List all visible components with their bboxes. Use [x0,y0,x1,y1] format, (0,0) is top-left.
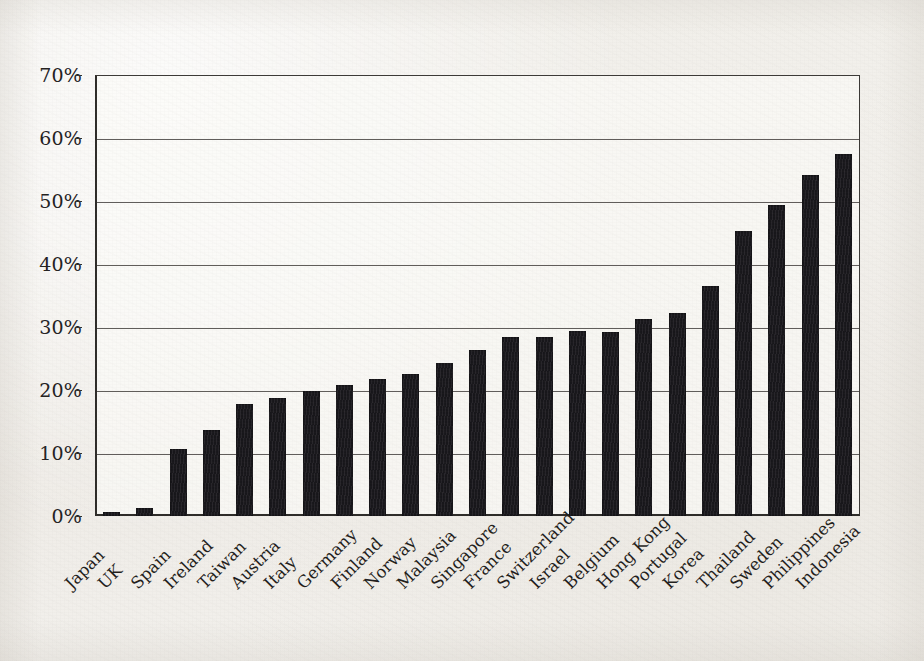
bar [103,512,120,516]
bar [336,385,353,516]
bar [536,337,553,516]
bar [136,508,153,516]
y-axis-tick-mark [75,264,82,265]
bar [768,205,785,516]
bar [436,363,453,516]
bar [602,332,619,516]
bar [203,430,220,516]
bar-series [95,75,860,516]
bar [236,404,253,516]
bar [835,154,852,516]
bar [702,286,719,516]
y-axis-tick-mark [75,327,82,328]
bar [635,319,652,516]
bar [269,398,286,516]
y-axis-tick-mark [75,390,82,391]
y-axis-tick-mark [75,201,82,202]
bar [303,391,320,516]
bar [802,175,819,516]
bar-chart-figure: 0%10%20%30%40%50%60%70% JapanUKSpainIrel… [0,0,924,661]
bar [735,231,752,516]
y-axis-tick-mark [75,453,82,454]
bar [469,350,486,516]
y-axis-tick-mark [75,75,82,76]
bar [569,331,586,516]
bar [502,337,519,516]
y-axis-tick-mark [75,516,82,517]
y-axis: 0%10%20%30%40%50%60%70% [0,75,82,516]
bar [402,374,419,516]
x-axis-category-labels: JapanUKSpainIrelandTaiwanAustriaItalyGer… [95,520,860,660]
bar [170,449,187,516]
scanned-page: 0%10%20%30%40%50%60%70% JapanUKSpainIrel… [0,0,924,661]
bar [669,313,686,516]
bar [369,379,386,516]
y-axis-tick-mark [75,138,82,139]
